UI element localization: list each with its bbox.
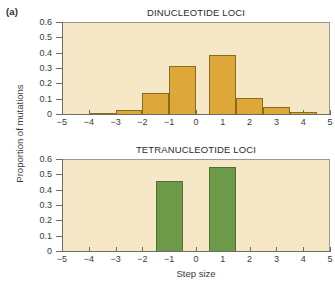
x-tick [116,247,117,251]
x-tick [142,247,143,251]
y-tick-label: 0.4 [22,49,52,58]
x-axis-line [62,114,331,115]
y-axis-line [62,22,63,115]
y-tick [56,114,62,115]
y-tick-label: 0.6 [22,18,52,27]
y-tick [56,251,62,252]
y-tick-label: 0.3 [22,64,52,73]
y-tick-label: 0.5 [22,33,52,42]
x-tick [303,247,304,251]
bar [116,110,143,114]
x-axis-label: Step size [62,268,330,279]
y-axis-line [62,159,63,252]
x-tick-label: 3 [264,118,288,127]
y-tick [56,190,62,191]
y-tick-label: 0.2 [22,79,52,88]
y-tick [56,159,62,160]
y-tick [56,99,62,100]
bar [169,66,196,114]
bar [142,93,169,114]
y-tick-label: 0.5 [22,170,52,179]
figure-panel-a: (a) Proportion of mutations DINUCLEOTIDE… [0,0,335,289]
x-tick [276,247,277,251]
y-tick-label: 0.1 [22,232,52,241]
x-tick-label: 1 [211,255,235,264]
x-tick-label: −1 [157,255,181,264]
x-tick [196,247,197,251]
x-tick-label: −4 [77,255,101,264]
x-tick [330,110,331,114]
x-tick [62,247,63,251]
x-tick [196,110,197,114]
y-tick-label: 0.2 [22,216,52,225]
x-tick-label: 2 [238,118,262,127]
bar [209,167,236,251]
x-tick-label: 4 [291,255,315,264]
bar [290,112,317,114]
x-tick-label: −4 [77,118,101,127]
x-tick [250,247,251,251]
x-tick-label: −5 [50,118,74,127]
x-axis-line [62,251,331,252]
y-tick [56,236,62,237]
chart-dinucleotide-loci: DINUCLEOTIDE LOCI 00.10.20.30.40.50.6 −5… [0,0,335,140]
y-tick-label: 0 [22,247,52,256]
y-tick [56,22,62,23]
plot-area [62,159,330,251]
bar [236,98,263,114]
x-tick [62,110,63,114]
x-tick-label: 5 [318,255,335,264]
y-tick [56,205,62,206]
x-tick-label: 0 [184,118,208,127]
x-tick-label: 0 [184,255,208,264]
x-tick-label: 3 [264,255,288,264]
y-tick [56,174,62,175]
y-tick [56,37,62,38]
plot-area [62,22,330,114]
bar [156,181,183,251]
bar [89,113,116,115]
x-tick [89,247,90,251]
y-tick-label: 0.1 [22,95,52,104]
x-tick-label: −3 [104,255,128,264]
x-tick-label: 5 [318,118,335,127]
x-tick-label: 2 [238,255,262,264]
y-tick [56,53,62,54]
x-tick-label: −3 [104,118,128,127]
x-tick-label: −2 [130,255,154,264]
x-tick-label: −5 [50,255,74,264]
y-tick-label: 0 [22,110,52,119]
chart-title: TETRANUCLEOTIDE LOCI [62,144,330,155]
x-tick-label: −2 [130,118,154,127]
bar [263,107,290,114]
y-tick [56,83,62,84]
x-tick-label: 1 [211,118,235,127]
y-tick [56,68,62,69]
x-tick [330,247,331,251]
y-tick-label: 0.4 [22,186,52,195]
y-tick-label: 0.6 [22,155,52,164]
x-tick-label: −1 [157,118,181,127]
chart-title: DINUCLEOTIDE LOCI [62,7,330,18]
x-tick-label: 4 [291,118,315,127]
y-tick [56,220,62,221]
chart-tetranucleotide-loci: TETRANUCLEOTIDE LOCI 00.10.20.30.40.50.6… [0,140,335,272]
y-tick-label: 0.3 [22,201,52,210]
bar [209,55,236,114]
